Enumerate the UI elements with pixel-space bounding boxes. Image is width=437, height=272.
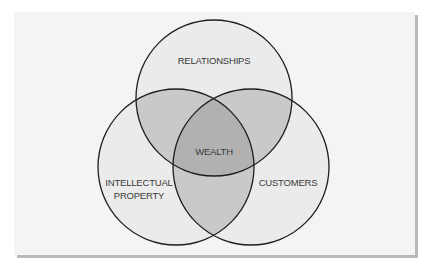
customers-label: CUSTOMERS [259, 177, 318, 188]
relationships-label: RELATIONSHIPS [178, 55, 251, 66]
intellectual-property-label-line1: INTELLECTUAL [105, 177, 172, 188]
intellectual-property-label-line2: PROPERTY [114, 190, 165, 201]
wealth-label: WEALTH [195, 146, 233, 157]
venn-diagram: RELATIONSHIPS WEALTH INTELLECTUAL PROPER… [0, 0, 437, 272]
